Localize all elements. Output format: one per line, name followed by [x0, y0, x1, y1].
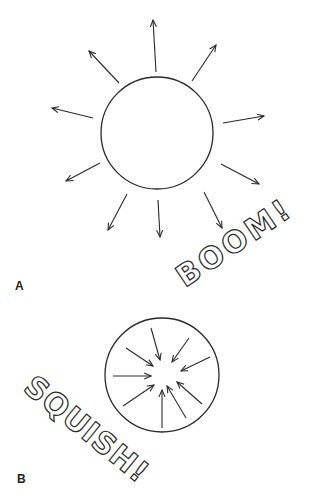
panel-b-figure [105, 318, 219, 432]
diagram-canvas: BOOM! SQUISH! [0, 0, 319, 498]
outward-arrows [52, 20, 264, 237]
panel-a-circle [101, 77, 213, 189]
panel-a-figure [52, 20, 264, 237]
boom-caption: BOOM! [169, 191, 298, 294]
panel-b-label: B [17, 472, 26, 486]
inward-arrows [113, 328, 210, 428]
panel-a-label: A [15, 279, 24, 293]
squish-caption: SQUISH! [18, 368, 157, 490]
